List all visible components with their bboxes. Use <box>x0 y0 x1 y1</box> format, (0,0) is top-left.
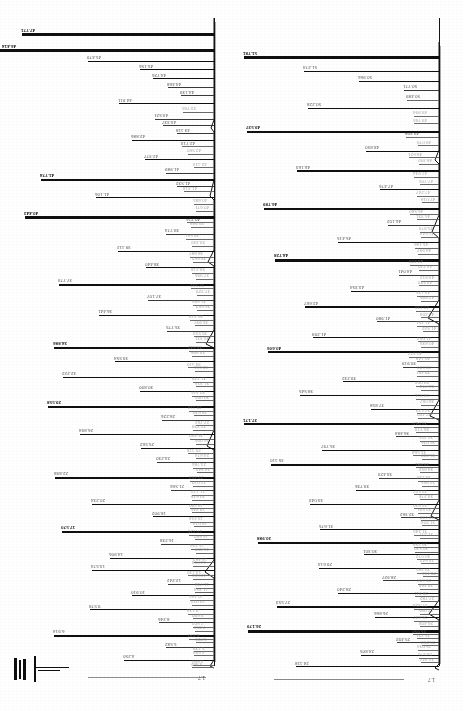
peak-line <box>192 500 214 501</box>
peak-label: 21.122 <box>191 489 205 493</box>
spectrum-plot-left: 47.77146.41445.47945.15644.72644.46844.1… <box>0 0 232 710</box>
peak-line <box>421 237 439 238</box>
solvent-peak-envelope-right <box>232 0 464 710</box>
peak-line <box>417 376 439 377</box>
peak-label: 45.644 <box>420 231 434 235</box>
peak-line <box>192 246 214 247</box>
peak-label: 14.018 <box>192 560 206 564</box>
peak-label: 49.766 <box>413 118 427 122</box>
peak-label: 12.686 <box>192 573 206 577</box>
peak-label: 40.377 <box>408 351 422 355</box>
integrator-tick <box>35 667 69 668</box>
peak-label: 46.789 <box>263 202 277 206</box>
peak-label: 28.226 <box>161 414 175 418</box>
peak-label: 42.886 <box>131 134 145 138</box>
peak-label: 39.919 <box>402 361 416 365</box>
peak-label: 44.270 <box>418 264 432 268</box>
peak-line <box>366 151 439 152</box>
scale-tag-right: 1.7 <box>428 677 435 683</box>
peak-line <box>359 81 439 82</box>
peak-line <box>419 164 439 165</box>
peak-label: 16.682 <box>194 534 208 538</box>
peak-line <box>183 112 214 113</box>
peak-label: 38.316 <box>415 393 429 397</box>
peak-label: 34.442 <box>188 345 202 349</box>
peak-label: 44.041 <box>398 269 412 273</box>
peak-label: 8.246 <box>158 617 170 621</box>
peak-line <box>420 499 439 500</box>
peak-label: 30.890 <box>139 385 153 389</box>
peak-label: 49.308 <box>405 131 419 135</box>
peak-line <box>375 617 439 618</box>
peak-label: 40.671 <box>195 205 209 209</box>
peak-label: 39.330 <box>191 240 205 244</box>
peak-label: 46.414 <box>2 44 16 48</box>
peak-label: 44.957 <box>417 248 431 252</box>
peak-line <box>177 133 214 134</box>
peak-label: 40.835 <box>420 341 434 345</box>
peak-label: 29.156 <box>422 571 436 575</box>
peak-line <box>197 472 214 473</box>
peak-label: 26.006 <box>195 438 209 442</box>
peak-line <box>418 650 440 651</box>
peak-label: 42.438 <box>415 305 429 309</box>
peak-line <box>192 667 214 668</box>
peak-label: 43.766 <box>182 106 196 110</box>
peak-label: 28.469 <box>419 583 433 587</box>
peak-label: 20.234 <box>91 498 105 502</box>
peak-label: 26.637 <box>413 615 427 619</box>
peak-label: 33.736 <box>355 484 369 488</box>
peak-label: 18.458 <box>189 516 203 520</box>
spectrum-panel-left: 47.77146.41445.47945.15644.72644.46844.1… <box>0 0 232 710</box>
peak-label: 41.293 <box>312 332 326 336</box>
peak-label: 25.562 <box>140 442 154 446</box>
peak-label: 28.011 <box>414 591 428 595</box>
integrator-tick <box>19 660 21 679</box>
peak-label: 16.238 <box>160 538 174 542</box>
peak-line <box>181 95 214 96</box>
peak-label: 45.479 <box>87 55 101 59</box>
peak-label: 48.392 <box>418 158 432 162</box>
peak-label: 25.034 <box>417 644 431 648</box>
peak-label: 27.553 <box>276 600 290 604</box>
peak-label: 38.545 <box>299 389 313 393</box>
peak-label: 38.440 <box>145 262 159 266</box>
peak-line <box>196 342 214 343</box>
peak-label: 6.026 <box>195 637 207 641</box>
peak-label: 32.133 <box>420 515 434 519</box>
peak-line <box>421 390 439 391</box>
peak-line <box>404 90 439 91</box>
peak-line <box>406 137 439 138</box>
peak-label: 26.179 <box>247 624 261 628</box>
peak-line <box>192 605 214 606</box>
peak-label: 45.186 <box>414 242 428 246</box>
peak-label: 40.148 <box>416 356 430 360</box>
peak-line <box>192 512 214 513</box>
peak-label: 36.663 <box>196 304 210 308</box>
peak-line <box>196 444 214 445</box>
peak-label: 35.339 <box>421 453 435 457</box>
peak-label: 10.910 <box>131 590 145 594</box>
peak-line <box>22 33 214 36</box>
peak-label: 22.454 <box>189 475 203 479</box>
peak-label: 22.010 <box>192 480 206 484</box>
peak-label: 26.866 <box>374 611 388 615</box>
peak-label: 41.318 <box>183 186 197 190</box>
peak-label: 43.521 <box>154 113 168 117</box>
peak-label: 11.798 <box>195 582 209 586</box>
peak-label: 17.126 <box>188 529 202 533</box>
peak-line <box>161 544 214 545</box>
peak-line <box>166 173 214 174</box>
peak-line <box>418 513 439 514</box>
peak-label: 39.461 <box>416 370 430 374</box>
peak-line <box>195 371 214 372</box>
peak-label: 35.331 <box>195 336 209 340</box>
peak-label: 33.507 <box>413 489 427 493</box>
peak-line <box>422 486 439 487</box>
peak-label: 36.885 <box>192 299 206 303</box>
peak-label: 45.156 <box>139 64 153 68</box>
peak-label: 10.022 <box>191 599 205 603</box>
peak-label: 26.894 <box>79 428 93 432</box>
peak-label: 35.997 <box>194 320 208 324</box>
peak-label: 42.377 <box>144 154 158 158</box>
